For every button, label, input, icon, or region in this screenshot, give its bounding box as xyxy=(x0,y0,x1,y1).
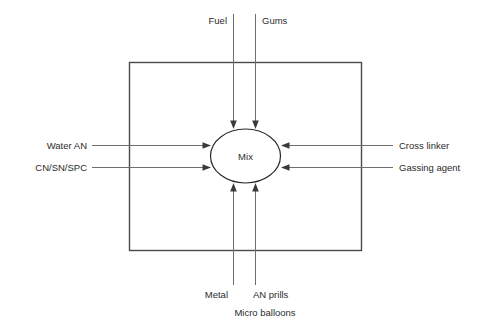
label-input-cross-linker: Cross linker xyxy=(399,140,449,151)
input-arrow-bottom-metal xyxy=(230,183,237,285)
label-input-gassing-agent: Gassing agent xyxy=(399,162,461,173)
label-input-gums: Gums xyxy=(262,15,288,26)
label-input-fuel: Fuel xyxy=(209,15,227,26)
input-arrow-top-fuel xyxy=(230,14,237,129)
mix-node-label: Mix xyxy=(238,151,253,162)
input-arrow-left-cn-sn-spc xyxy=(92,164,211,171)
input-arrow-right-cross-linker xyxy=(281,142,393,149)
process-diagram: Mix Fuel Gums Water AN CN/SN/SPC Cross l… xyxy=(0,0,485,329)
label-input-cn-sn-spc: CN/SN/SPC xyxy=(35,162,87,173)
label-input-metal: Metal xyxy=(205,289,228,300)
label-input-micro-balloons: Micro balloons xyxy=(234,307,295,318)
label-input-an-prills: AN prills xyxy=(253,289,289,300)
input-arrow-bottom-an-prills xyxy=(252,183,259,285)
input-arrow-top-gums xyxy=(252,14,259,129)
label-input-water-an: Water AN xyxy=(47,140,87,151)
input-arrow-left-water-an xyxy=(92,142,211,149)
input-arrow-right-gassing-agent xyxy=(281,164,393,171)
